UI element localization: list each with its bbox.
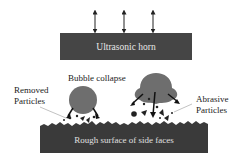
abrasive-particles-label-line1: Abrasive [196,94,229,104]
removed-particles-label-line2: Particles [14,96,45,106]
abrasive-particles-leader [174,104,192,112]
left-bubble [66,86,100,119]
surface-label: Rough surface of side faces [40,130,208,150]
ultrasonic-machining-diagram: Ultrasonic horn Rough surface of side fa… [0,0,245,163]
right-bubble-collapsing [130,73,180,118]
removed-particles-label-line1: Removed [14,85,49,95]
vibration-arrows [95,12,153,31]
horn-label: Ultrasonic horn [60,33,192,60]
removed-particles-leader [40,107,66,118]
bubble-collapse-label: Bubble collapse [68,73,126,83]
abrasive-particles-label-line2: Particles [196,105,227,115]
